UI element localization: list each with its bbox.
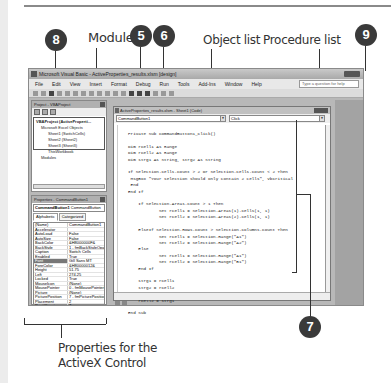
tab-categorized[interactable]: Categorized xyxy=(59,213,87,221)
copy-icon[interactable] xyxy=(65,91,70,96)
properties-bracket-right xyxy=(106,318,107,324)
view-code-icon[interactable] xyxy=(34,109,40,115)
full-module-view-icon[interactable] xyxy=(122,301,127,306)
project-explorer-header: Project - VBAProject xyxy=(32,101,106,108)
code-window: ActiveProperties_results.xlsm - Sheet1 (… xyxy=(113,106,331,301)
properties-tabs: Alphabetic Categorized xyxy=(33,213,105,221)
procedure-list-value: Click xyxy=(231,116,240,121)
object-list-value: CommandButton1 xyxy=(118,116,150,121)
menu-window[interactable]: Window xyxy=(225,81,243,87)
selected-object-type: CommandButton xyxy=(71,205,101,210)
object-selector[interactable]: CommandButton1 CommandButton xyxy=(33,204,105,212)
menu-addins[interactable]: Add-Ins xyxy=(198,81,215,87)
vb-app-icon xyxy=(31,71,37,77)
properties-bracket-left xyxy=(24,318,25,324)
undo-icon[interactable] xyxy=(89,91,94,96)
cut-icon[interactable] xyxy=(57,91,62,96)
reset-icon[interactable] xyxy=(121,91,126,96)
property-grid: (Name)CommandButton1 Accelerator AutoLoa… xyxy=(33,222,105,306)
menu-tools[interactable]: Tools xyxy=(178,81,190,87)
properties-window: Properties - CommandButton1 CommandButto… xyxy=(31,195,107,305)
procedure-list-label: Procedure list xyxy=(263,33,341,47)
callout-7-bracket xyxy=(296,120,297,272)
project-horizontal-scrollbar[interactable] xyxy=(33,184,105,189)
object-list-dropdown[interactable]: CommandButton1 ▼ xyxy=(116,115,226,122)
window-title: Microsoft Visual Basic - ActivePropertie… xyxy=(39,71,176,77)
callout-6: 6 xyxy=(153,25,175,47)
procedure-view-icon[interactable] xyxy=(115,301,120,306)
properties-window-icon[interactable] xyxy=(145,91,150,96)
workspace-background xyxy=(335,100,363,305)
properties-bracket xyxy=(24,324,106,325)
project-explorer-toolbar xyxy=(32,108,106,116)
callout-9-leader xyxy=(365,46,366,71)
window-controls[interactable] xyxy=(344,71,360,77)
help-search-input[interactable]: Type a question for help xyxy=(299,80,359,88)
callout-7: 7 xyxy=(299,316,321,338)
find-icon[interactable] xyxy=(81,91,86,96)
run-icon[interactable] xyxy=(105,91,110,96)
tree-item-modules[interactable]: Modules xyxy=(36,155,102,161)
design-mode-icon[interactable] xyxy=(129,91,134,96)
code-window-footer xyxy=(114,292,330,300)
toolbox-icon[interactable] xyxy=(161,91,166,96)
object-list-label: Object list xyxy=(203,33,260,47)
callout-7-bracket-bottom xyxy=(292,272,297,273)
window-titlebar: Microsoft Visual Basic - ActivePropertie… xyxy=(29,69,363,79)
code-window-title: ActiveProperties_results.xlsm - Sheet1 (… xyxy=(120,108,202,113)
insert-userform-icon[interactable] xyxy=(41,91,46,96)
callout-9: 9 xyxy=(355,24,377,46)
menu-format[interactable]: Format xyxy=(111,81,127,87)
project-explorer-icon[interactable] xyxy=(137,91,142,96)
properties-label-line2: ActiveX Control xyxy=(58,356,146,370)
code-vertical-scrollbar[interactable] xyxy=(325,125,330,292)
menu-file[interactable]: File xyxy=(35,81,43,87)
redo-icon[interactable] xyxy=(97,91,102,96)
toggle-folders-icon[interactable] xyxy=(50,109,56,115)
callout-8: 8 xyxy=(45,29,67,51)
tab-alphabetic[interactable]: Alphabetic xyxy=(33,213,58,221)
properties-leader xyxy=(61,324,62,338)
code-window-controls[interactable] xyxy=(314,108,328,113)
menu-help[interactable]: Help xyxy=(251,81,261,87)
code-window-titlebar: ActiveProperties_results.xlsm - Sheet1 (… xyxy=(114,107,330,114)
menu-insert[interactable]: Insert xyxy=(89,81,102,87)
project-explorer: Project - VBAProject VBAProject (ActiveP… xyxy=(31,100,107,192)
menubar: File Edit View Insert Format Debug Run T… xyxy=(29,79,363,89)
vbe-window: Microsoft Visual Basic - ActivePropertie… xyxy=(28,68,364,306)
menu-edit[interactable]: Edit xyxy=(52,81,61,87)
save-icon[interactable] xyxy=(49,91,54,96)
properties-label-line1: Properties for the xyxy=(58,341,157,355)
top-rule xyxy=(24,5,391,7)
paste-icon[interactable] xyxy=(73,91,78,96)
view-object-icon[interactable] xyxy=(42,109,48,115)
menu-view[interactable]: View xyxy=(70,81,81,87)
callout-5: 5 xyxy=(130,25,152,47)
project-explorer-title: Project - VBAProject xyxy=(34,102,70,107)
break-icon[interactable] xyxy=(113,91,118,96)
module-icon xyxy=(115,108,119,113)
view-excel-icon[interactable] xyxy=(33,91,38,96)
properties-header: Properties - CommandButton1 xyxy=(32,196,106,203)
close-icon[interactable] xyxy=(100,197,105,202)
page-margin xyxy=(0,0,8,383)
callout-7-bracket-top xyxy=(296,194,310,195)
code-combos: CommandButton1 ▼ Click ▼ xyxy=(114,114,330,123)
properties-title: Properties - CommandButton1 xyxy=(34,197,88,202)
procedure-list-dropdown[interactable]: Click ▼ xyxy=(229,115,325,122)
selected-object-name: CommandButton1 xyxy=(35,205,70,210)
chevron-down-icon[interactable]: ▼ xyxy=(319,116,324,121)
callout-7-leader xyxy=(310,194,311,318)
property-row[interactable]: PrintObjectTrue xyxy=(34,304,104,306)
module-label: Module xyxy=(88,30,133,45)
menu-debug[interactable]: Debug xyxy=(136,81,151,87)
close-icon[interactable] xyxy=(100,102,105,107)
menu-run[interactable]: Run xyxy=(160,81,169,87)
object-browser-icon[interactable] xyxy=(153,91,158,96)
project-tree: VBAProject (ActiveProperti... Microsoft … xyxy=(33,117,105,150)
chevron-down-icon[interactable]: ▼ xyxy=(220,116,225,121)
standard-toolbar xyxy=(29,89,363,98)
help-icon[interactable] xyxy=(169,91,174,96)
code-editor[interactable]: Private Sub CommandButton1_Click() Dim r… xyxy=(117,125,324,292)
